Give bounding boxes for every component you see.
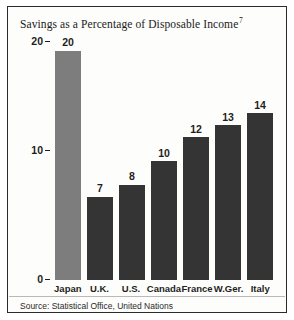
- x-axis-label-italy: Italy: [244, 283, 276, 294]
- bar-france: [183, 137, 209, 280]
- y-axis-tick-10: 10: [20, 144, 50, 156]
- bar-item: 13: [212, 37, 244, 280]
- bar-item: 12: [180, 37, 212, 280]
- bar-item: 10: [148, 37, 180, 280]
- x-axis-label-us: U.S.: [115, 283, 147, 294]
- x-axis-label-uk: U.K.: [84, 283, 116, 294]
- y-axis-tick-0: 0: [20, 273, 50, 285]
- y-axis-tick-20: 20: [20, 35, 50, 47]
- chart-title-footnote-marker: 7: [239, 16, 243, 25]
- y-axis-tick-mark: [45, 150, 50, 152]
- chart-title: Savings as a Percentage of Disposable In…: [20, 16, 243, 30]
- bar-group: 20 7 8 10 12 13: [52, 37, 276, 281]
- y-axis-tick-mark: [45, 279, 50, 281]
- x-axis-label-canada: Canada: [147, 283, 181, 294]
- bar-value-label: 12: [190, 124, 202, 135]
- bar-value-label: 14: [254, 100, 266, 111]
- bar-value-label: 8: [129, 171, 135, 182]
- y-axis-tick-10-label: 10: [31, 144, 43, 156]
- plot-area: 20 10 0 20 7 8 10 12: [20, 37, 278, 280]
- chart-title-text: Savings as a Percentage of Disposable In…: [20, 18, 238, 30]
- x-axis-labels: Japan U.K. U.S. Canada France W.Ger. Ita…: [52, 283, 276, 294]
- y-axis-tick-20-label: 20: [31, 35, 43, 47]
- x-axis-label-japan: Japan: [52, 283, 84, 294]
- y-axis-tick-0-label: 0: [37, 273, 43, 285]
- bar-item: 20: [52, 37, 84, 280]
- source-note: Source: Statistical Office, United Natio…: [20, 301, 173, 311]
- footer-divider: [9, 296, 285, 297]
- y-axis-tick-mark: [45, 41, 50, 43]
- bar-value-label: 13: [222, 112, 234, 123]
- bar-japan: [55, 51, 81, 281]
- bar-item: 14: [244, 37, 276, 280]
- bar-item: 8: [116, 37, 148, 280]
- bar-value-label: 10: [158, 148, 170, 159]
- x-axis-label-france: France: [181, 283, 213, 294]
- bar-uk: [87, 197, 113, 280]
- bar-us: [119, 185, 145, 280]
- bar-italy: [247, 113, 273, 280]
- bar-canada: [151, 161, 177, 280]
- bar-wger: [215, 125, 241, 280]
- bar-value-label: 7: [97, 183, 103, 194]
- bar-item: 7: [84, 37, 116, 280]
- x-axis-label-wger: W.Ger.: [213, 283, 245, 294]
- bar-value-label: 20: [62, 37, 74, 48]
- chart-figure: Savings as a Percentage of Disposable In…: [7, 6, 287, 313]
